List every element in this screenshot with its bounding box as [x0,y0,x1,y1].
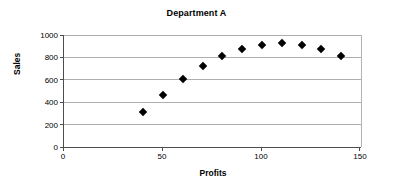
data-point [297,40,305,48]
plot-area [63,35,362,147]
y-tick-label-0: 0 [54,143,58,152]
x-tick-100 [261,147,262,151]
data-point [258,40,266,48]
data-point [337,52,345,60]
data-point [218,52,226,60]
chart-container: Department A Sales 02004006008001000 050… [0,0,393,192]
y-tick-label-800: 800 [45,53,58,62]
gridline-y-400 [64,102,361,103]
y-axis-tick-labels: 02004006008001000 [26,35,58,147]
x-axis-tick-labels: 050100150 [63,152,363,164]
gridline-y-800 [64,57,361,58]
data-point [238,45,246,53]
y-tick-200 [60,124,64,125]
x-tick-label-150: 150 [353,152,366,161]
gridline-y-1000 [64,35,361,36]
x-tick-150 [359,147,360,151]
y-tick-600 [60,79,64,80]
x-axis-title: Profits [63,168,363,178]
x-tick-label-0: 0 [61,152,65,161]
data-point [179,75,187,83]
y-tick-label-1000: 1000 [40,31,58,40]
x-tick-label-50: 50 [158,152,167,161]
y-tick-800 [60,57,64,58]
x-tick-0 [63,147,64,151]
gridline-y-600 [64,79,361,80]
y-tick-label-400: 400 [45,98,58,107]
x-tick-label-100: 100 [254,152,267,161]
data-point [317,45,325,53]
y-tick-400 [60,102,64,103]
data-point [278,39,286,47]
data-point [139,108,147,116]
data-point [198,62,206,70]
chart-title: Department A [0,8,393,18]
y-tick-label-600: 600 [45,75,58,84]
y-tick-label-200: 200 [45,120,58,129]
y-tick-1000 [60,35,64,36]
x-tick-50 [162,147,163,151]
data-point [159,91,167,99]
gridline-y-200 [64,124,361,125]
y-axis-title: Sales [12,53,22,75]
